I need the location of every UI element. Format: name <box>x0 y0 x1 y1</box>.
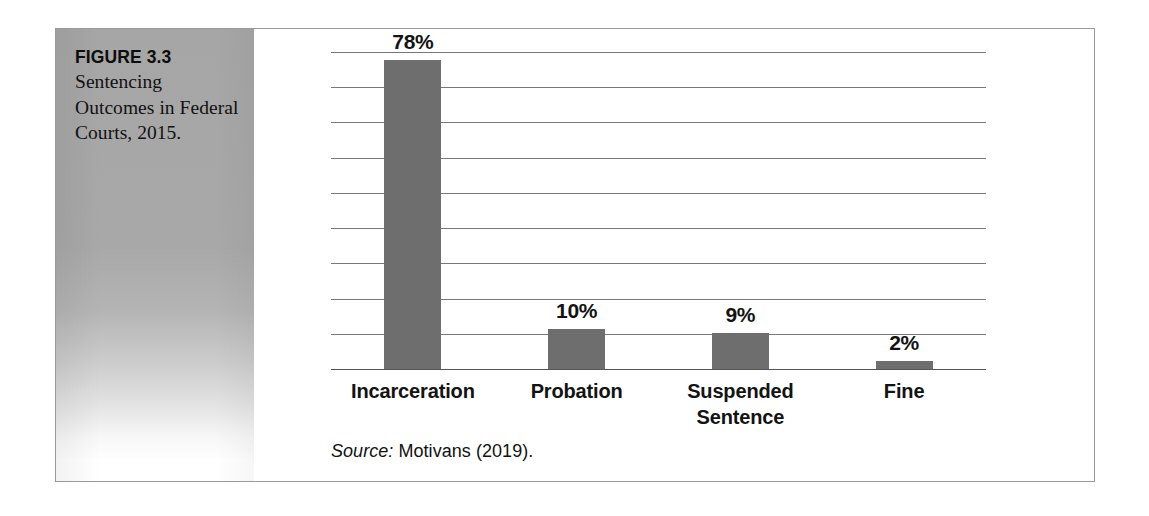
bar-suspended-sentence <box>712 333 769 369</box>
x-axis-label: Suspended Sentence <box>658 378 822 430</box>
source-note: Source: Motivans (2019). <box>331 441 533 462</box>
bar-value-label: 2% <box>844 331 964 355</box>
figure-container: FIGURE 3.3 Sentencing Outcomes in Federa… <box>55 28 1095 482</box>
source-citation: Motivans (2019). <box>393 441 533 461</box>
figure-number: FIGURE 3.3 <box>75 47 243 68</box>
bar-fine <box>876 361 933 369</box>
figure-title: Sentencing Outcomes in Federal Courts, 2… <box>75 69 243 145</box>
chart-bars: 78%Incarceration10%Probation9%Suspended … <box>331 29 986 482</box>
bar-incarceration <box>384 60 441 369</box>
x-axis-label: Incarceration <box>331 378 495 404</box>
figure-caption: FIGURE 3.3 Sentencing Outcomes in Federa… <box>75 47 243 145</box>
x-axis-label: Probation <box>495 378 659 404</box>
bar-value-label: 78% <box>353 30 473 54</box>
bar-probation <box>548 329 605 369</box>
bar-value-label: 9% <box>680 303 800 327</box>
figure-caption-panel: FIGURE 3.3 Sentencing Outcomes in Federa… <box>56 29 254 482</box>
chart-plot-area: 78%Incarceration10%Probation9%Suspended … <box>331 29 1095 482</box>
x-axis-label: Fine <box>822 378 986 404</box>
bar-value-label: 10% <box>517 299 637 323</box>
source-label: Source: <box>331 441 393 461</box>
